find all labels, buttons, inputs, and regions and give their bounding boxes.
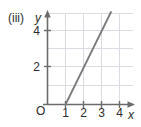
x-tick-label-1: 1 — [59, 106, 73, 120]
y-axis — [44, 10, 51, 105]
x-tick-label-2: 2 — [77, 106, 91, 120]
horizontal-gridlines — [47, 14, 133, 86]
vertical-gridlines — [66, 13, 120, 104]
origin-label: O — [36, 104, 45, 118]
x-axis-label: x — [128, 108, 134, 122]
x-tick-label-4: 4 — [113, 106, 127, 120]
y-tick-label-2: 2 — [28, 60, 40, 74]
plotted-line — [66, 12, 112, 105]
y-tick-label-4: 4 — [28, 24, 40, 38]
y-axis-label: y — [35, 11, 41, 25]
x-tick-label-3: 3 — [95, 106, 109, 120]
graph-figure: (iii) — [0, 0, 141, 127]
